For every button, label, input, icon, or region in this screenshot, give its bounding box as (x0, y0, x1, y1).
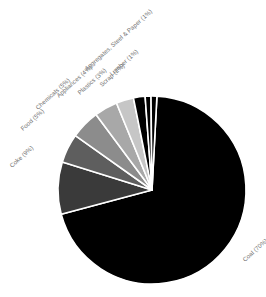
pie-chart-svg: Coal (70%)Coke (9%)Food (5%)Chemicals (5… (0, 0, 266, 297)
pie-chart-figure: Coal (70%)Coke (9%)Food (5%)Chemicals (5… (0, 0, 266, 297)
pie-slices-group (58, 96, 246, 284)
